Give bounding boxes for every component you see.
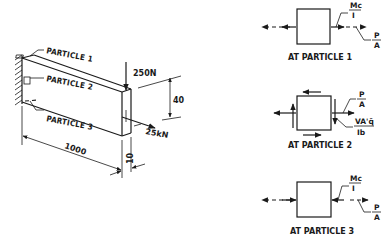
thickness-dimension-label: 10 (126, 152, 135, 164)
particle-2-marker (24, 77, 30, 84)
element-caption: AT PARTICLE 3 (290, 227, 354, 236)
height-ext-bottom (162, 117, 181, 120)
bending-stress-denominator: I (352, 184, 355, 193)
stress-element-particle-2: P A VA'q̄ Ib AT PARTICLE 2 (274, 90, 374, 150)
cantilever-beam: PARTICLE 1 PARTICLE 2 PARTICLE 3 250N 25… (15, 46, 185, 178)
thickness-arrow-left (110, 171, 121, 175)
axial-stress-denominator: A (374, 213, 380, 222)
element-caption: AT PARTICLE 2 (288, 141, 352, 150)
element-caption: AT PARTICLE 1 (288, 53, 353, 62)
axial-leader (343, 99, 356, 113)
bending-stress-numerator: Mc (350, 1, 362, 10)
stress-element-diagram: PARTICLE 1 PARTICLE 2 PARTICLE 3 250N 25… (0, 0, 388, 250)
bending-stress-denominator: I (352, 11, 355, 20)
particle-3-marker (25, 100, 38, 101)
shear-leader (336, 118, 353, 127)
bending-stress-numerator: Mc (350, 174, 362, 183)
axial-stress-denominator: A (359, 100, 365, 109)
axial-stress-numerator: P (374, 31, 380, 40)
fixed-wall-hatching-icon (15, 55, 22, 105)
bending-leader (338, 186, 349, 200)
stress-element-particle-1: Mc I P A AT PARTICLE 1 (262, 1, 381, 62)
axial-leader (358, 200, 371, 212)
axial-load-label: 25kN (145, 127, 169, 140)
element-square (297, 9, 330, 44)
axial-stress-numerator: P (374, 203, 380, 212)
axial-load-arrow (122, 117, 155, 128)
vertical-load-label: 250N (133, 69, 156, 78)
bending-leader (336, 13, 348, 27)
particle-2-label: PARTICLE 2 (46, 74, 94, 92)
axial-stress-denominator: A (374, 41, 380, 50)
diagram-svg: PARTICLE 1 PARTICLE 2 PARTICLE 3 250N 25… (0, 0, 388, 250)
shear-stress-numerator: VA'q̄ (355, 117, 374, 126)
element-square (297, 96, 331, 130)
element-square (297, 182, 331, 217)
particle-3-label: PARTICLE 3 (46, 114, 94, 132)
shear-stress-denominator: Ib (357, 128, 366, 137)
axial-leader (356, 27, 371, 40)
stress-element-particle-3: Mc I P A AT PARTICLE 3 (262, 174, 381, 236)
length-dimension-line (23, 136, 121, 170)
height-dimension-label: 40 (173, 96, 185, 105)
axial-load-tick (134, 124, 141, 126)
axial-stress-numerator: P (359, 90, 365, 99)
